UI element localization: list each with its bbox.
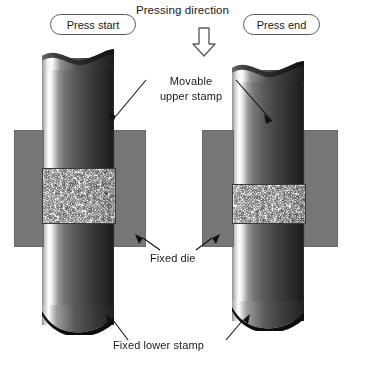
movable-upper-stamp-line1: Movable — [170, 75, 212, 87]
lower-stamp-foot-right — [232, 301, 304, 331]
press-end-assembly — [190, 0, 365, 366]
fixed-die-right-block — [304, 130, 338, 247]
upper-stamp-top-left — [42, 48, 114, 70]
movable-upper-stamp-line2: upper stamp — [160, 90, 222, 102]
movable-upper-stamp-label: Movable upper stamp — [148, 74, 234, 104]
fixed-lower-stamp-label: Fixed lower stamp — [113, 339, 204, 352]
powder-compact-right — [232, 184, 306, 224]
upper-stamp-top-right — [232, 60, 304, 82]
diagram-canvas: Pressing direction Press start Press end — [0, 0, 365, 366]
fixed-die-right-block — [114, 130, 146, 247]
fixed-die-left-block — [14, 130, 44, 247]
press-start-assembly — [0, 0, 175, 366]
powder-compact-left — [42, 168, 116, 224]
movable-upper-stamp-left — [42, 58, 114, 170]
fixed-die-label: Fixed die — [150, 252, 196, 265]
fixed-die-left-block — [202, 130, 234, 247]
lower-stamp-foot-left — [42, 305, 114, 335]
movable-upper-stamp-right — [232, 70, 304, 186]
